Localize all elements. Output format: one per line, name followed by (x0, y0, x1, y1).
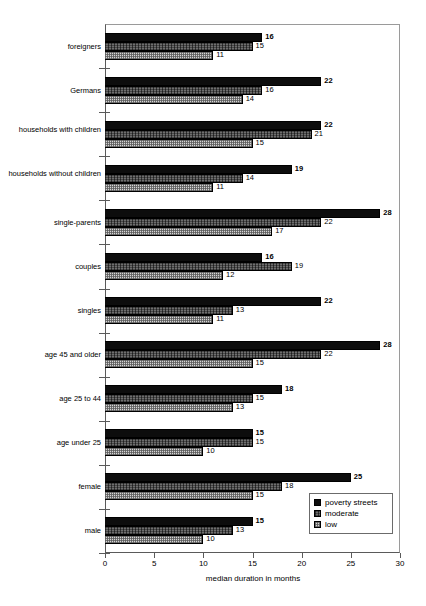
bar-poverty-streets (105, 121, 321, 130)
legend-swatch-icon (314, 499, 321, 506)
bar-value-label: 22 (324, 120, 332, 130)
bar-low (105, 183, 213, 192)
bar-moderate (105, 306, 233, 315)
y-axis-tick (99, 421, 110, 422)
y-axis-label-age-under-25: age under 25 (1, 438, 101, 447)
y-axis-label-male: male (1, 526, 101, 535)
y-axis-label-single-parents: single-parents (1, 218, 101, 227)
y-axis-tick (99, 200, 110, 201)
bar-moderate (105, 262, 292, 271)
bar-low (105, 403, 233, 412)
bar-value-label: 16 (265, 85, 273, 95)
bar-value-label: 15 (256, 437, 264, 447)
bar-value-label: 18 (285, 384, 293, 394)
bar-poverty-streets (105, 517, 253, 526)
bar-low (105, 139, 253, 148)
bar-group: 222115 (105, 121, 400, 148)
legend-item: poverty streets (314, 497, 389, 508)
y-axis-label-age-45-and-older: age 45 and older (1, 350, 101, 359)
bar-poverty-streets (105, 77, 321, 86)
legend-item: moderate (314, 508, 389, 519)
bar-value-label: 14 (246, 173, 254, 183)
y-axis-tick (99, 465, 110, 466)
bar-low (105, 491, 253, 500)
bar-poverty-streets (105, 33, 262, 42)
bar-value-label: 22 (324, 349, 332, 359)
chart-legend: poverty streetsmoderatelow (309, 493, 393, 534)
bar-value-label: 13 (236, 402, 244, 412)
bar-moderate (105, 218, 321, 227)
legend-label: moderate (325, 508, 359, 519)
bar-group: 191411 (105, 165, 400, 192)
bar-moderate (105, 438, 253, 447)
bar-value-label: 12 (226, 270, 234, 280)
legend-item: low (314, 519, 389, 530)
legend-label: poverty streets (325, 497, 377, 508)
bar-value-label: 15 (256, 490, 264, 500)
bar-value-label: 19 (295, 164, 303, 174)
bar-value-label: 15 (256, 138, 264, 148)
y-axis-tick (99, 244, 110, 245)
x-axis-tick-label: 30 (396, 558, 405, 570)
y-axis-category-labels: foreignersGermanshouseholds with childre… (0, 24, 101, 553)
y-axis-label-Germans: Germans (1, 86, 101, 95)
bar-low (105, 447, 203, 456)
bar-low (105, 51, 213, 60)
x-axis-tick-labels: 051015202530 (0, 558, 426, 572)
y-axis-tick (99, 68, 110, 69)
x-axis-title: median duration in months (105, 573, 401, 585)
bar-value-label: 14 (246, 94, 254, 104)
bar-poverty-streets (105, 473, 351, 482)
bar-value-label: 15 (256, 358, 264, 368)
bar-value-label: 25 (354, 472, 362, 482)
bar-groups-container: 1615112216142221151914112822171619122213… (105, 24, 400, 553)
bar-low (105, 535, 203, 544)
bar-low (105, 95, 243, 104)
bar-poverty-streets (105, 341, 380, 350)
y-axis-label-households-with-children: households with children (1, 125, 101, 134)
bar-group: 221614 (105, 77, 400, 104)
bar-moderate (105, 130, 312, 139)
y-axis-tick (99, 112, 110, 113)
y-axis-label-foreigners: foreigners (1, 42, 101, 51)
bar-poverty-streets (105, 165, 292, 174)
bar-moderate (105, 350, 321, 359)
bar-value-label: 10 (206, 534, 214, 544)
x-axis-tick-label: 20 (297, 558, 306, 570)
bar-value-label: 13 (236, 525, 244, 535)
bar-moderate (105, 394, 253, 403)
x-axis-tick-label: 5 (152, 558, 156, 570)
bar-value-label: 11 (216, 182, 224, 192)
bar-value-label: 28 (383, 208, 391, 218)
bar-value-label: 11 (216, 50, 224, 60)
x-axis-tick-label: 15 (248, 558, 257, 570)
x-axis-tick-label: 25 (346, 558, 355, 570)
x-axis-tick-label: 0 (103, 558, 107, 570)
y-axis-tick (99, 289, 110, 290)
bar-value-label: 15 (256, 516, 264, 526)
bar-poverty-streets (105, 209, 380, 218)
x-axis-tick-label: 10 (199, 558, 208, 570)
bar-value-label: 10 (206, 446, 214, 456)
bar-group: 161511 (105, 33, 400, 60)
y-axis-tick (99, 377, 110, 378)
bar-value-label: 22 (324, 217, 332, 227)
bar-low (105, 227, 272, 236)
bar-group: 151510 (105, 429, 400, 456)
bar-group: 282217 (105, 209, 400, 236)
y-axis-label-age-25-to-44: age 25 to 44 (1, 394, 101, 403)
legend-swatch-icon (314, 510, 321, 517)
y-axis-label-households-without-children: households without children (1, 169, 101, 178)
bar-group: 181513 (105, 385, 400, 412)
y-axis-label-couples: couples (1, 262, 101, 271)
bar-value-label: 28 (383, 340, 391, 350)
legend-label: low (325, 519, 337, 530)
y-axis-tick (99, 553, 110, 554)
bar-value-label: 22 (324, 296, 332, 306)
bar-value-label: 15 (256, 393, 264, 403)
bar-chart-figure: foreignersGermanshouseholds with childre… (0, 0, 426, 606)
y-axis-tick (99, 156, 110, 157)
bar-moderate (105, 86, 262, 95)
bar-value-label: 21 (315, 129, 323, 139)
bar-poverty-streets (105, 297, 321, 306)
